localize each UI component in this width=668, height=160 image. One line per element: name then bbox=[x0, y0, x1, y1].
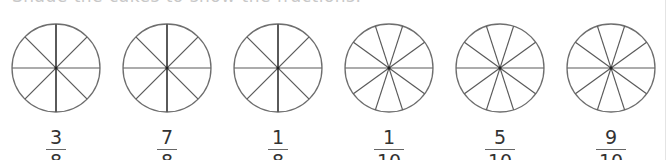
fraction-denominator: 8 bbox=[147, 152, 187, 160]
fraction-denominator: 8 bbox=[36, 152, 76, 160]
fraction-numerator: 9 bbox=[591, 128, 631, 148]
center-dot bbox=[609, 66, 612, 69]
fraction-denominator: 10 bbox=[369, 152, 409, 160]
fraction-numerator: 5 bbox=[480, 128, 520, 148]
center-dot bbox=[165, 66, 168, 69]
fraction-numerator: 7 bbox=[147, 128, 187, 148]
cake-circle[interactable] bbox=[123, 24, 211, 112]
center-dot bbox=[498, 66, 501, 69]
center-dot bbox=[387, 66, 390, 69]
fraction-label: 38 bbox=[36, 128, 76, 160]
fraction-numerator: 3 bbox=[36, 128, 76, 148]
cake-circle[interactable] bbox=[345, 24, 433, 112]
fraction-numerator: 1 bbox=[369, 128, 409, 148]
fraction-label: 910 bbox=[591, 128, 631, 160]
fraction-denominator: 8 bbox=[258, 152, 298, 160]
cake-circle[interactable] bbox=[567, 24, 655, 112]
fraction-label: 78 bbox=[147, 128, 187, 160]
fraction-label: 110 bbox=[369, 128, 409, 160]
cake-circle[interactable] bbox=[456, 24, 544, 112]
center-dot bbox=[54, 66, 57, 69]
cake-circle[interactable] bbox=[12, 24, 100, 112]
cakes-area bbox=[0, 0, 668, 160]
fraction-label: 18 bbox=[258, 128, 298, 160]
fraction-denominator: 10 bbox=[480, 152, 520, 160]
page-edge-divider bbox=[665, 0, 666, 160]
cake-circle[interactable] bbox=[234, 24, 322, 112]
fraction-label: 510 bbox=[480, 128, 520, 160]
fraction-numerator: 1 bbox=[258, 128, 298, 148]
fraction-denominator: 10 bbox=[591, 152, 631, 160]
center-dot bbox=[276, 66, 279, 69]
